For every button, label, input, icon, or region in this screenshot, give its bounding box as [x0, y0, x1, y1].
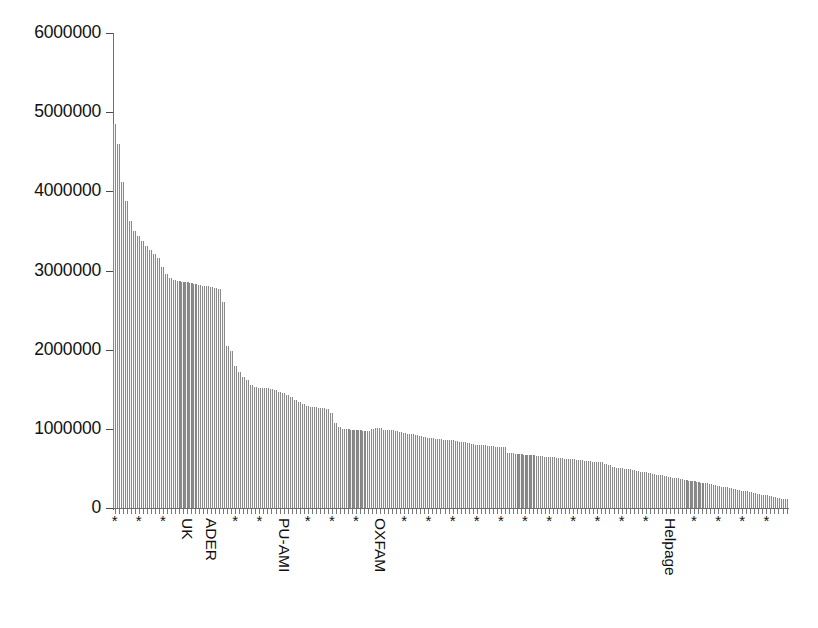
bar — [258, 388, 261, 508]
bar — [560, 458, 563, 508]
bar — [399, 432, 402, 508]
bar — [785, 499, 788, 508]
bar — [608, 465, 611, 508]
bar — [173, 280, 176, 508]
bar — [612, 467, 615, 508]
bar — [149, 250, 152, 508]
bar — [692, 481, 695, 508]
y-axis-tick-mark — [106, 429, 113, 430]
bar — [431, 438, 434, 508]
bar — [556, 458, 559, 508]
bar — [230, 351, 233, 508]
bar — [435, 439, 438, 508]
bar — [427, 438, 430, 508]
x-axis-anonymous-label: * — [715, 514, 721, 528]
bar — [185, 282, 188, 508]
bar — [218, 289, 221, 508]
bar — [117, 144, 120, 508]
bar — [407, 434, 410, 508]
bar — [600, 462, 603, 508]
bar — [226, 346, 229, 508]
bar — [479, 445, 482, 508]
bar — [503, 447, 506, 508]
bar — [278, 392, 281, 508]
bar — [294, 400, 297, 508]
bar — [471, 444, 474, 508]
bar — [286, 395, 289, 508]
x-axis-anonymous-label: * — [305, 514, 311, 528]
bar — [463, 442, 466, 508]
bar — [544, 457, 547, 508]
x-axis-anonymous-label: * — [450, 514, 456, 528]
bar — [189, 283, 192, 508]
bar — [177, 281, 180, 508]
bar — [664, 476, 667, 508]
bar — [709, 484, 712, 508]
x-axis-anonymous-label: * — [353, 514, 359, 528]
bar — [137, 236, 140, 508]
x-axis-category-label: OXFAM — [373, 518, 388, 572]
y-axis-tick-mark — [106, 508, 113, 509]
bar — [451, 440, 454, 508]
bar — [592, 462, 595, 508]
x-axis-anonymous-label: * — [764, 514, 770, 528]
bar — [246, 380, 249, 508]
x-axis-anonymous-label: * — [739, 514, 745, 528]
bar — [527, 455, 530, 508]
bar — [362, 431, 365, 508]
y-axis-tick-mark — [106, 191, 113, 192]
bar — [222, 302, 225, 508]
x-axis-anonymous-label: * — [136, 514, 142, 528]
bar — [475, 445, 478, 508]
bar — [548, 457, 551, 508]
bar — [395, 431, 398, 508]
x-axis-anonymous-label: * — [232, 514, 238, 528]
bar — [741, 491, 744, 508]
bar — [483, 445, 486, 508]
bar — [391, 430, 394, 508]
bar — [467, 443, 470, 508]
bar — [705, 483, 708, 508]
bar — [765, 495, 768, 508]
bar — [487, 446, 490, 508]
bar — [644, 472, 647, 508]
bar — [680, 479, 683, 508]
bar — [322, 408, 325, 508]
bar — [314, 407, 317, 508]
bar — [568, 459, 571, 508]
bar — [141, 241, 144, 508]
bar — [238, 372, 241, 508]
bar — [423, 437, 426, 508]
bar — [640, 472, 643, 508]
bar — [358, 430, 361, 508]
bar — [552, 457, 555, 508]
bar — [415, 435, 418, 508]
bar — [572, 459, 575, 508]
x-axis-anonymous-label: * — [112, 514, 118, 528]
bar — [125, 201, 128, 508]
y-axis-tick-mark — [106, 271, 113, 272]
x-axis-anonymous-label: * — [160, 514, 166, 528]
x-axis-anonymous-label: * — [426, 514, 432, 528]
bar — [588, 461, 591, 508]
bar — [769, 496, 772, 508]
bar — [777, 498, 780, 508]
bar — [193, 284, 196, 508]
bar — [387, 430, 390, 508]
bar — [495, 447, 498, 508]
bar — [198, 285, 201, 508]
bar — [270, 389, 273, 508]
bar — [656, 475, 659, 508]
x-axis-anonymous-label: * — [691, 514, 697, 528]
bar — [737, 490, 740, 508]
bar — [181, 282, 184, 508]
bar — [684, 480, 687, 508]
y-axis-tick-mark — [106, 112, 113, 113]
bar — [648, 473, 651, 508]
bar — [206, 286, 209, 508]
x-axis-anonymous-label: * — [546, 514, 552, 528]
bar — [580, 460, 583, 508]
bar — [753, 493, 756, 508]
y-axis-tick-label: 5000000 — [1, 103, 101, 121]
bar — [439, 439, 442, 508]
